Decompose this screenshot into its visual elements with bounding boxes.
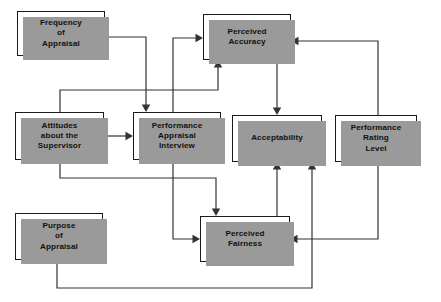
edge-attitudes-to-interview bbox=[104, 132, 133, 140]
edge-attitudes-to-fairness-top bbox=[60, 160, 220, 216]
node-acceptability[interactable]: Acceptability bbox=[232, 115, 322, 162]
node-performance-appraisal-interview[interactable]: Performance Appraisal Interview bbox=[133, 112, 221, 160]
node-label: Performance Rating Level bbox=[349, 123, 404, 154]
edge-frequency-to-interview bbox=[105, 37, 150, 112]
node-perceived-fairness[interactable]: Perceived Fairness bbox=[200, 216, 290, 262]
edge-attitudes-to-accuracy-bottom bbox=[60, 60, 222, 112]
edge-interview-to-fairness-left bbox=[173, 160, 200, 243]
node-label: Perceived Fairness bbox=[223, 229, 266, 249]
node-label: Frequency of Appraisal bbox=[38, 18, 84, 49]
diagram-canvas: Frequency of Appraisal Perceived Accurac… bbox=[0, 0, 441, 302]
edge-fairness-to-acceptability bbox=[273, 162, 281, 216]
node-frequency-of-appraisal[interactable]: Frequency of Appraisal bbox=[17, 11, 105, 56]
node-purpose-of-appraisal[interactable]: Purpose of Appraisal bbox=[15, 213, 103, 260]
edge-rating-to-fairness-right bbox=[290, 162, 378, 243]
node-perceived-accuracy[interactable]: Perceived Accuracy bbox=[203, 14, 291, 60]
node-label: Perceived Accuracy bbox=[225, 27, 268, 47]
node-attitudes-about-the-supervisor[interactable]: Attitudes about the Supervisor bbox=[15, 112, 104, 160]
node-label: Attitudes about the Supervisor bbox=[36, 121, 83, 152]
node-label: Purpose of Appraisal bbox=[38, 221, 80, 252]
node-label: Performance Appraisal Interview bbox=[150, 121, 205, 152]
node-performance-rating-level[interactable]: Performance Rating Level bbox=[335, 115, 417, 162]
edge-accuracy-to-acceptability bbox=[273, 60, 281, 115]
edge-rating-to-accuracy-right bbox=[291, 37, 378, 115]
edge-interview-to-accuracy-left bbox=[173, 34, 203, 112]
node-label: Acceptability bbox=[249, 133, 305, 143]
